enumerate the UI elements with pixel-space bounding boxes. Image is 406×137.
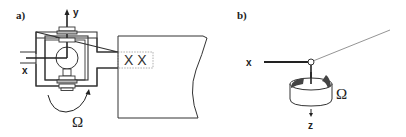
axis-label-x-b: x [246, 57, 252, 68]
z-axis-arrow-icon [309, 109, 313, 117]
pivoted-rod [313, 30, 390, 61]
axis-label-y: y [73, 7, 79, 18]
axis-label-z: z [308, 120, 313, 131]
body-housing [118, 36, 207, 118]
panel-b-label: b) [237, 9, 247, 22]
panel-a-label: a) [16, 9, 26, 22]
omega-label-a: Ω [72, 114, 83, 130]
pivot-joint [308, 59, 314, 65]
rotation-arrow-icon [48, 89, 91, 112]
coupling-marks: X X [124, 52, 147, 68]
rotating-drum-icon [290, 72, 332, 106]
coupling-block: X X [118, 52, 153, 68]
panel-b: b) x Ω z [237, 9, 390, 131]
panel-a: a) y [16, 7, 207, 130]
axis-label-x: x [22, 65, 28, 76]
omega-label-b: Ω [336, 86, 347, 102]
figure-canvas: a) y [0, 0, 406, 137]
bottom-bearing [57, 76, 77, 91]
